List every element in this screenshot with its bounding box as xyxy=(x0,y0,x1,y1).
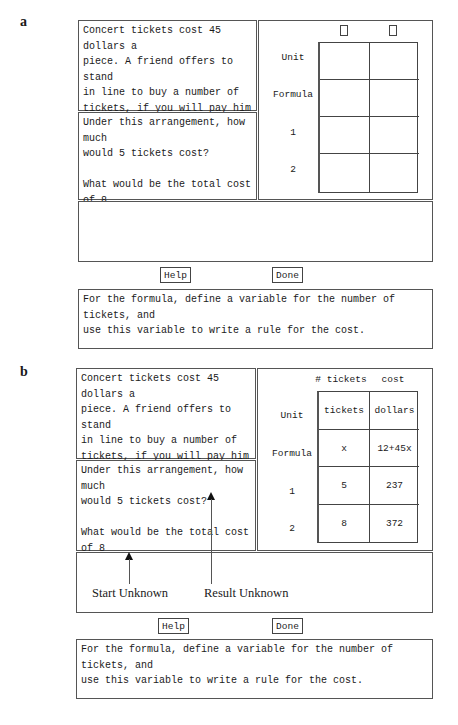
panel-b-label: b xyxy=(20,364,28,380)
cell-row2-col1[interactable] xyxy=(320,154,370,192)
hint-message-box: For the formula, define a variable for t… xyxy=(76,639,433,699)
cell-row1-col1[interactable] xyxy=(320,117,370,154)
cell-unit-tickets[interactable]: tickets xyxy=(319,392,370,430)
row-label-formula: Formula xyxy=(263,89,323,100)
row-label-2: 2 xyxy=(263,164,323,175)
cell-row1-cost[interactable]: 237 xyxy=(370,467,419,505)
start-unknown-annotation: Start Unknown xyxy=(92,586,168,601)
worksheet-panel: Unit Formula 1 2 xyxy=(258,20,433,200)
questions-box: Under this arrangement, how much would 5… xyxy=(76,460,256,551)
cell-unit-col1[interactable] xyxy=(320,43,370,80)
panel-a-label: a xyxy=(20,14,27,30)
help-button[interactable]: Help xyxy=(158,618,189,634)
worksheet-grid: tickets dollars x 12+45x 5 237 8 372 xyxy=(317,391,418,543)
row-label-1: 1 xyxy=(263,127,323,138)
column-header-empty-1[interactable] xyxy=(340,25,348,36)
done-button[interactable]: Done xyxy=(272,618,303,634)
worksheet-panel: # tickets cost Unit Formula 1 2 tickets … xyxy=(257,368,433,551)
column-header-tickets[interactable]: # tickets xyxy=(315,374,367,385)
row-label-formula: Formula xyxy=(262,448,322,459)
cell-row2-col2[interactable] xyxy=(370,154,419,192)
cell-row2-tickets[interactable]: 8 xyxy=(319,505,370,542)
problem-statement-box: Concert tickets cost 45 dollars a piece.… xyxy=(76,368,256,459)
help-button[interactable]: Help xyxy=(160,267,191,283)
work-area xyxy=(78,201,433,262)
cell-formula-col1[interactable] xyxy=(320,80,370,117)
hint-message-box: For the formula, define a variable for t… xyxy=(78,289,433,349)
row-label-unit: Unit xyxy=(263,52,323,63)
row-label-1: 1 xyxy=(262,486,322,497)
questions-box: Under this arrangement, how much would 5… xyxy=(78,112,257,200)
cell-unit-col2[interactable] xyxy=(370,43,419,80)
row-label-2: 2 xyxy=(262,523,322,534)
cell-formula-col2[interactable] xyxy=(370,80,419,117)
cell-formula-cost[interactable]: 12+45x xyxy=(370,430,419,467)
cell-formula-tickets[interactable]: x xyxy=(319,430,370,467)
problem-statement-box: Concert tickets cost 45 dollars a piece.… xyxy=(78,20,257,111)
row-label-unit: Unit xyxy=(262,410,322,421)
start-unknown-arrow-line xyxy=(129,559,130,584)
column-header-cost[interactable]: cost xyxy=(368,374,418,385)
result-unknown-annotation: Result Unknown xyxy=(204,586,288,601)
cell-unit-cost[interactable]: dollars xyxy=(370,392,419,430)
result-unknown-arrow-line xyxy=(211,499,212,584)
cell-row1-col2[interactable] xyxy=(370,117,419,154)
cell-row1-tickets[interactable]: 5 xyxy=(319,467,370,505)
cell-row2-cost[interactable]: 372 xyxy=(370,505,419,542)
column-header-empty-2[interactable] xyxy=(389,25,397,36)
worksheet-grid xyxy=(318,42,418,193)
done-button[interactable]: Done xyxy=(272,267,303,283)
